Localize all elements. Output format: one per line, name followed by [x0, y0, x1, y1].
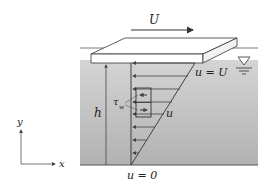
moving-plate — [91, 38, 237, 63]
depth-label: h — [94, 106, 102, 120]
surface-condition-label: u = U — [195, 66, 228, 79]
velocity-label: u — [166, 107, 173, 120]
coordinate-axes — [21, 130, 55, 164]
y-axis-label: y — [16, 116, 23, 127]
plate-velocity-label: U — [149, 13, 160, 27]
couette-flow-diagram: U u = U h τ w u u = 0 — [0, 0, 272, 186]
x-axis-label: x — [59, 158, 65, 169]
bottom-condition-label: u = 0 — [127, 169, 157, 182]
shear-stress-subscript: w — [119, 103, 125, 110]
